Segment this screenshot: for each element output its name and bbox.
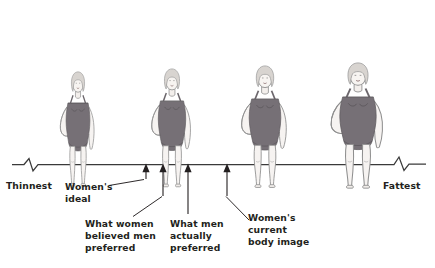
callout-believed-men-line2: believed men bbox=[85, 230, 156, 242]
callout-men-actually-line1: What men bbox=[170, 218, 224, 230]
callout-men-actually-line3: preferred bbox=[170, 242, 224, 254]
callout-current-body-image-line3: body image bbox=[248, 236, 309, 248]
figure-1-thinnest bbox=[60, 72, 94, 186]
callout-men-actually: What men actually preferred bbox=[170, 218, 224, 253]
figure-3 bbox=[242, 66, 287, 188]
leader-line-current-body-image bbox=[226, 197, 249, 221]
callout-womens-ideal: Women's ideal bbox=[65, 181, 112, 205]
figure-4-fattest bbox=[331, 63, 382, 188]
callout-current-body-image: Women's current body image bbox=[248, 212, 309, 247]
callout-believed-men: What women believed men preferred bbox=[85, 218, 156, 253]
callout-believed-men-line3: preferred bbox=[85, 242, 156, 254]
callout-current-body-image-line2: current bbox=[248, 224, 309, 236]
marker-womens-ideal bbox=[142, 164, 149, 180]
callout-current-body-image-line1: Women's bbox=[248, 212, 309, 224]
diagram-canvas: Thinnest Fattest Women's ideal What wome… bbox=[0, 0, 435, 268]
axis-label-thinnest: Thinnest bbox=[6, 180, 52, 192]
axis-label-fattest: Fattest bbox=[383, 180, 421, 192]
callout-men-actually-line2: actually bbox=[170, 230, 224, 242]
callout-womens-ideal-line2: ideal bbox=[65, 193, 112, 205]
callout-believed-men-line1: What women bbox=[85, 218, 156, 230]
marker-current-body-image bbox=[223, 164, 230, 197]
leader-line-believed-men bbox=[133, 197, 162, 217]
figure-2 bbox=[152, 69, 191, 187]
callout-womens-ideal-line1: Women's bbox=[65, 181, 112, 193]
marker-men-actually bbox=[184, 164, 191, 215]
leader-line-womens-ideal bbox=[109, 180, 144, 186]
